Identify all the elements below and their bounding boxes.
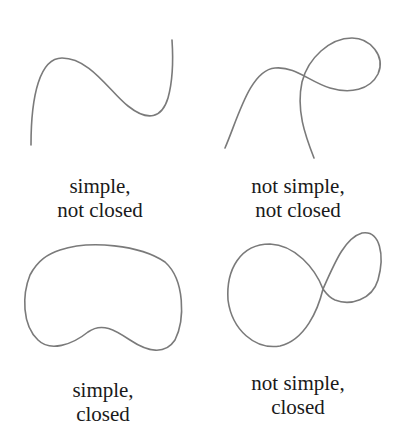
- caption-not-simple-closed: not simple, closed: [218, 371, 378, 419]
- curve-simple-closed: [25, 245, 182, 350]
- caption-line-2: not closed: [218, 198, 378, 222]
- caption-line-2: closed: [218, 395, 378, 419]
- caption-line-1: not simple,: [218, 371, 378, 395]
- caption-line-2: not closed: [20, 198, 180, 222]
- caption-line-2: closed: [23, 402, 183, 426]
- caption-line-1: simple,: [23, 378, 183, 402]
- caption-line-1: simple,: [20, 174, 180, 198]
- curve-not-simple-closed: [228, 233, 381, 347]
- curve-not-simple-not-closed: [225, 38, 380, 158]
- curve-simple-not-closed: [31, 40, 173, 145]
- caption-simple-closed: simple, closed: [23, 378, 183, 426]
- caption-not-simple-not-closed: not simple, not closed: [218, 174, 378, 222]
- caption-line-1: not simple,: [218, 174, 378, 198]
- caption-simple-not-closed: simple, not closed: [20, 174, 180, 222]
